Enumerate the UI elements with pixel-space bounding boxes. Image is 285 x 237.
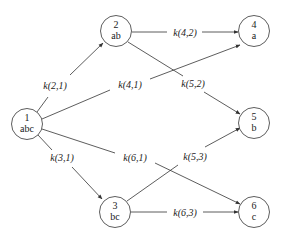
edge-label-k63: k(6,3)	[173, 207, 197, 219]
node-4-number: 4	[252, 19, 257, 30]
node-3-number: 3	[113, 200, 118, 211]
node-4: 4 a	[239, 16, 270, 47]
edge-3-6: k(6,3)	[131, 207, 238, 219]
node-5: 5 b	[239, 108, 270, 139]
node-1-label: abc	[20, 123, 34, 134]
edge-1-2: k(2,1)	[37, 43, 103, 112]
edge-2-4: k(4,2)	[132, 27, 238, 39]
edge-1-3: k(3,1)	[38, 135, 102, 199]
edge-label-k52: k(5,2)	[181, 78, 205, 90]
node-5-number: 5	[252, 111, 257, 122]
node-2: 2 ab	[101, 16, 132, 47]
edge-3-5: k(5,3)	[127, 128, 240, 201]
edge-1-6: k(6,1)	[42, 129, 240, 204]
edge-label-k42: k(4,2)	[173, 27, 197, 39]
edge-label-k31: k(3,1)	[50, 152, 74, 164]
node-2-label: ab	[111, 30, 120, 41]
edge-1-4: k(4,1)	[42, 45, 240, 119]
node-6: 6 c	[239, 197, 270, 228]
edge-2-5: k(5,2)	[128, 42, 240, 114]
node-2-number: 2	[114, 19, 119, 30]
node-3: 3 bc	[100, 197, 131, 228]
node-1-number: 1	[25, 112, 30, 123]
node-3-label: bc	[110, 211, 120, 222]
edge-label-k61: k(6,1)	[123, 152, 147, 164]
reaction-network-diagram: k(2,1) k(4,1) k(3,1) k(6,1) k(4,2) k(5,2…	[0, 0, 285, 237]
node-6-number: 6	[252, 200, 257, 211]
edge-label-k53: k(5,3)	[183, 151, 207, 163]
edge-label-k21: k(2,1)	[43, 80, 67, 92]
node-5-label: b	[252, 122, 257, 133]
edge-label-k41: k(4,1)	[118, 79, 142, 91]
node-6-label: c	[252, 211, 257, 222]
node-1: 1 abc	[12, 109, 43, 140]
node-4-label: a	[252, 30, 257, 41]
